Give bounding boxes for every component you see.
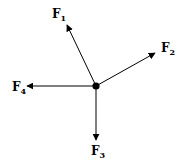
force-f2-arrow [96, 53, 155, 86]
force-f4-label: F4 [12, 80, 27, 96]
force-f1-label: F1 [52, 7, 66, 23]
force-f2-label: F2 [161, 41, 175, 57]
point-mass-dot [92, 82, 99, 89]
force-f3-label: F3 [91, 144, 106, 160]
force-diagram: F1 F2 F3 F4 [0, 0, 184, 168]
force-f1-arrow [67, 25, 96, 86]
